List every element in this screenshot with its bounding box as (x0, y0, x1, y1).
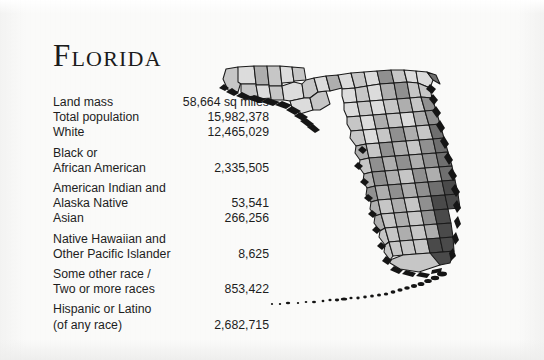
stat-label: White (53, 125, 84, 140)
key-island (411, 284, 417, 288)
key-island (279, 303, 281, 305)
key-island (384, 292, 388, 295)
stat-label: Total population (53, 110, 139, 125)
key-island (297, 302, 299, 304)
key-island (437, 272, 447, 277)
page-edge-bottom (0, 340, 544, 360)
stat-label: Black or African American (53, 146, 146, 176)
key-island (286, 302, 290, 305)
key-island (363, 296, 367, 299)
key-island (349, 297, 352, 300)
county-region (434, 209, 451, 224)
stat-label: Asian (53, 211, 84, 226)
key-island (404, 286, 410, 290)
key-island (356, 297, 359, 300)
stat-label: Some other race / Two or more races (53, 267, 155, 297)
key-island (391, 290, 396, 293)
key-island (322, 300, 325, 302)
county-region (238, 66, 256, 84)
stat-label: Hispanic or Latino (of any race) (53, 302, 151, 332)
county-region (267, 66, 282, 86)
stat-label: Land mass (53, 95, 113, 110)
county-region (282, 82, 304, 101)
key-island (335, 299, 339, 302)
scanned-page: Florida Land mass58,664 sq milesTotal po… (0, 0, 544, 360)
key-island (370, 295, 374, 298)
stat-label: Native Hawaiian and Other Pacific Island… (53, 232, 171, 262)
page-title: Florida (53, 40, 162, 71)
stat-label: American Indian and Alaska Native (53, 181, 166, 211)
florida-county-map-svg (214, 22, 514, 322)
county-region (292, 67, 306, 82)
key-island (312, 301, 316, 304)
county-region (269, 86, 284, 100)
key-island (328, 299, 331, 301)
county-region (254, 66, 269, 85)
key-island (424, 279, 432, 283)
coastline-detail (454, 216, 461, 229)
key-island (431, 276, 439, 280)
county-region (437, 223, 453, 238)
county-region (342, 88, 357, 103)
coastline-detail (416, 272, 430, 278)
key-island (377, 294, 381, 297)
key-island (341, 297, 347, 300)
page-edge-top (0, 0, 544, 14)
key-island (418, 282, 425, 286)
key-island (397, 288, 402, 291)
key-island (305, 301, 308, 303)
florida-map (214, 22, 514, 322)
key-island (271, 303, 273, 305)
